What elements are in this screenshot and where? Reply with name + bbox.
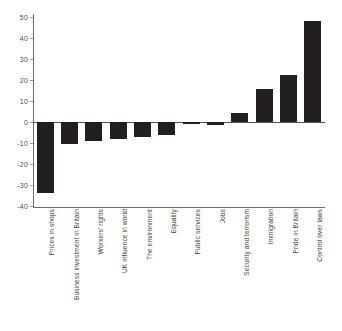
bar xyxy=(183,122,200,124)
x-axis-label-text: UK influence in world xyxy=(121,209,128,273)
x-axis-label-text: Business investment in Britain xyxy=(73,209,80,300)
y-tick-label: -30 xyxy=(2,182,28,189)
x-axis-label-text: Immigration xyxy=(267,209,274,245)
x-axis-label-text: Workers' rights xyxy=(97,209,104,254)
bar xyxy=(110,122,127,139)
x-axis-label-text: Equality xyxy=(170,209,177,233)
x-axis-label: The environment xyxy=(146,209,153,260)
x-axis-label-text: Control over laws xyxy=(316,209,323,262)
bar xyxy=(231,113,248,122)
y-tick-label: -20 xyxy=(2,161,28,168)
x-axis-label: Control over laws xyxy=(316,209,323,262)
bar xyxy=(37,122,54,193)
x-axis-label: Jobs xyxy=(219,209,226,223)
x-axis-label: Business investment in Britain xyxy=(73,209,80,300)
y-tick-label: 20 xyxy=(2,77,28,84)
bar xyxy=(85,122,102,141)
x-axis-label: Prices in shops xyxy=(48,209,55,255)
x-axis-label-text: Pride in Britain xyxy=(292,209,299,253)
x-axis-label-text: Prices in shops xyxy=(48,209,55,255)
bar xyxy=(280,75,297,122)
bar xyxy=(207,122,224,125)
y-tick-label: 10 xyxy=(2,98,28,105)
bar xyxy=(158,122,175,135)
x-axis-label: UK influence in world xyxy=(121,209,128,273)
y-tick-label: 0 xyxy=(2,119,28,126)
x-axis-label: Security and terrorism xyxy=(243,209,250,276)
x-axis-label: Public services xyxy=(194,209,201,254)
y-tick-label: -40 xyxy=(2,203,28,210)
bar-chart: 50403020100-10-20-30-40 Prices in shopsB… xyxy=(0,0,342,331)
bar xyxy=(61,122,78,144)
x-axis-label-text: The environment xyxy=(146,209,153,260)
bars-layer xyxy=(33,14,325,208)
x-axis-label-text: Public services xyxy=(194,209,201,254)
y-tick-label: 30 xyxy=(2,56,28,63)
x-axis-label: Pride in Britain xyxy=(292,209,299,253)
y-tick-label: 50 xyxy=(2,14,28,21)
bar xyxy=(304,21,321,122)
x-axis-label-text: Security and terrorism xyxy=(243,209,250,276)
x-axis-label: Immigration xyxy=(267,209,274,245)
y-tick-label: -10 xyxy=(2,140,28,147)
bar xyxy=(256,89,273,122)
x-axis-label: Workers' rights xyxy=(97,209,104,254)
x-axis-label-text: Jobs xyxy=(219,209,226,223)
x-axis-label: Equality xyxy=(170,209,177,233)
bar xyxy=(134,122,151,137)
y-tick-label: 40 xyxy=(2,35,28,42)
x-axis-labels: Prices in shopsBusiness investment in Br… xyxy=(33,209,325,329)
